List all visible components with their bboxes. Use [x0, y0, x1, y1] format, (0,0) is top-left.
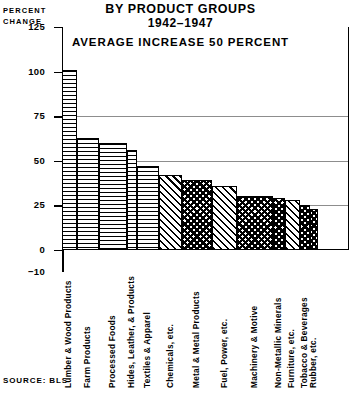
percent-change-bar-chart: PERCENT CHANGE BY PRODUCT GROUPS 1942–19… — [0, 0, 361, 393]
category-label: Lumber & Wood Products — [63, 280, 73, 388]
category-labels: Lumber & Wood ProductsFarm ProductsProce… — [62, 252, 349, 380]
category-label: Non-Metallic Minerals — [273, 297, 283, 388]
bar — [77, 138, 99, 250]
bar — [99, 143, 127, 250]
y-axis-tick-label: 100 — [1, 66, 45, 77]
category-label: Farm Products — [82, 326, 92, 388]
bar — [137, 166, 159, 250]
y-axis-tick-label: 75 — [1, 110, 45, 121]
y-axis-tick-mark — [54, 161, 62, 162]
bar — [182, 180, 212, 250]
bar — [62, 70, 77, 250]
bar — [300, 205, 310, 250]
category-label: Processed Foods — [107, 315, 117, 388]
category-label: Furniture, etc. — [286, 329, 296, 388]
category-label: Hides, Leather, & Products — [126, 276, 136, 388]
source-note: SOURCE: BLS — [3, 376, 68, 385]
bar — [285, 200, 301, 250]
chart-title-block: BY PRODUCT GROUPS 1942–1947 — [0, 2, 361, 30]
category-label: Textiles & Apparel — [142, 312, 152, 388]
y-axis-tick-label: 0 — [1, 244, 45, 255]
y-axis-tick-mark — [54, 72, 62, 73]
y-axis-tick-label: 25 — [1, 199, 45, 210]
category-label: Rubber, etc. — [308, 338, 318, 389]
bar — [273, 198, 284, 250]
y-axis-tick-mark — [54, 116, 62, 117]
bars-container — [62, 27, 349, 250]
y-axis-tick-mark — [54, 27, 62, 28]
bar — [237, 196, 273, 250]
category-label: Chemicals, etc. — [165, 324, 175, 388]
bar — [212, 186, 237, 250]
y-axis-tick-label: 125 — [1, 21, 45, 32]
category-label: Metal & Metal Products — [191, 291, 201, 388]
bar — [310, 209, 318, 250]
y-axis-tick-label: −10 — [1, 266, 45, 277]
y-axis-tick-label: 50 — [1, 155, 45, 166]
axis-extension-below-zero — [62, 250, 64, 272]
category-label: Machinery & Motive — [249, 306, 259, 388]
category-label: Fuel, Power, etc. — [219, 319, 229, 388]
bar — [159, 175, 183, 250]
chart-title: BY PRODUCT GROUPS — [0, 2, 361, 16]
bar — [127, 150, 137, 250]
y-axis-tick-mark — [54, 250, 62, 251]
y-axis-tick-mark — [54, 205, 62, 206]
